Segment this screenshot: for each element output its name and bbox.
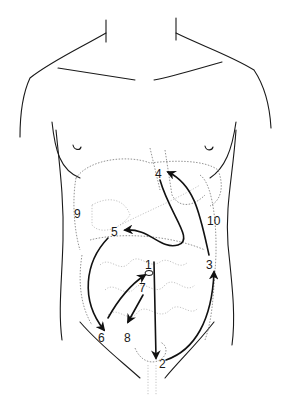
label-8: 8 xyxy=(124,332,131,344)
label-4: 4 xyxy=(155,168,162,180)
label-1: 1 xyxy=(145,259,152,271)
label-2: 2 xyxy=(159,358,166,370)
torso-illustration xyxy=(0,0,286,399)
label-10: 10 xyxy=(207,215,220,227)
label-9: 9 xyxy=(74,208,81,220)
body-outline xyxy=(20,18,271,378)
label-3: 3 xyxy=(206,259,213,271)
label-7: 7 xyxy=(139,282,146,294)
anatomy-diagram: 1 2 3 4 5 6 7 8 9 10 xyxy=(0,0,286,399)
label-6: 6 xyxy=(98,332,105,344)
label-5: 5 xyxy=(111,226,118,238)
